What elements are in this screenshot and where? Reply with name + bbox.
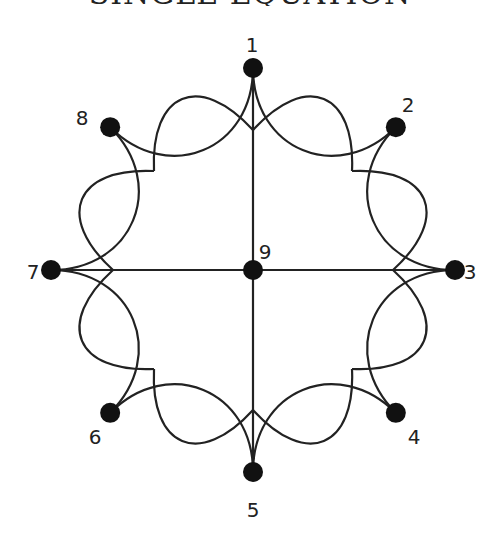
inner-arc-edge xyxy=(367,270,455,413)
inner-arc-edge xyxy=(253,384,396,472)
node-7-dot xyxy=(41,260,61,280)
node-2-label: 2 xyxy=(402,93,415,117)
outer-arc-edge xyxy=(154,96,253,171)
outer-arc-edge xyxy=(79,171,154,270)
outer-arc-edge xyxy=(79,270,154,369)
inner-arc-edge xyxy=(110,384,253,472)
node-3-dot xyxy=(445,260,465,280)
node-4-label: 4 xyxy=(408,425,421,449)
node-6-label: 6 xyxy=(89,425,102,449)
outer-arc-edge xyxy=(352,171,427,270)
node-4-dot xyxy=(386,403,406,423)
outer-arc-edge xyxy=(253,369,352,444)
inner-arc-edge xyxy=(253,68,396,156)
inner-arc-edge xyxy=(51,127,139,270)
node-1-dot xyxy=(243,58,263,78)
node-5-dot xyxy=(243,462,263,482)
node-8-dot xyxy=(100,117,120,137)
node-1-label: 1 xyxy=(246,33,259,57)
node-3-label: 3 xyxy=(464,260,477,284)
inner-arc-edge xyxy=(51,270,139,413)
inner-arc-edge xyxy=(367,127,455,270)
node-8-label: 8 xyxy=(76,106,89,130)
node-9-label: 9 xyxy=(259,240,272,264)
node-5-label: 5 xyxy=(247,498,260,522)
outer-arc-edge xyxy=(352,270,427,369)
outer-arc-edge xyxy=(154,369,253,444)
outer-arc-edge xyxy=(253,96,352,171)
inner-arc-edge xyxy=(110,68,253,156)
node-7-label: 7 xyxy=(27,260,40,284)
node-6-dot xyxy=(100,403,120,423)
graph-diagram: 123456789 xyxy=(0,0,500,546)
node-2-dot xyxy=(386,117,406,137)
